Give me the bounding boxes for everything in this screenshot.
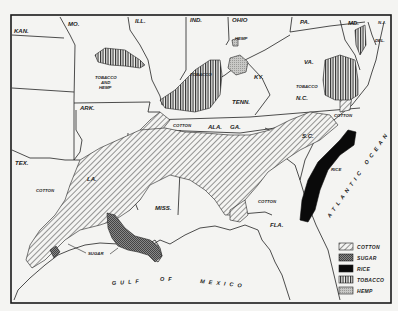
label-miss: MISS. [155,205,172,211]
label-va: VA. [304,59,314,65]
legend-label-sugar: SUGAR [357,255,377,261]
callout-cotton-fl: COTTON [258,199,277,204]
label-fla: FLA. [270,222,284,228]
label-ill: ILL. [135,18,146,24]
label-ga: GA. [230,124,241,130]
label-ky: KY. [254,74,264,80]
label-pa: PA. [300,19,310,25]
legend-swatch-sugar [339,254,353,261]
callout-tobacco-va: TOBACCO [296,84,318,89]
legend-label-cotton: COTTON [357,244,380,250]
legend-swatch-rice [339,265,353,272]
label-tenn: TENN. [232,99,250,105]
label-ark: ARK. [79,105,95,111]
callout-tobacco-hemp-3: HEMP [99,85,112,90]
label-la: LA. [87,176,97,182]
label-nj: N.J. [378,20,386,25]
label-ind: IND. [190,17,202,23]
label-del: DEL. [375,38,385,43]
label-ala: ALA. [207,124,222,130]
callout-tobacco-ky: TOBACCO [190,72,212,77]
callout-cotton-tn: COTTON [173,123,192,128]
callout-cotton-tx: COTTON [36,188,55,193]
label-nc: N.C. [296,95,308,101]
legend-label-hemp: HEMP [357,288,373,294]
callout-hemp-ky: HEMP [235,36,248,41]
callout-rice: RICE [331,167,341,172]
crop-map: KAN. MO. ILL. IND. OHIO PA. MD. N.J. DEL… [0,0,398,311]
label-sc: S.C. [302,133,314,139]
callout-cotton-nc: COTTON [334,113,353,118]
label-kan: KAN. [14,28,29,34]
label-mo: MO. [68,21,80,27]
legend-label-rice: RICE [357,266,371,272]
legend-swatch-hemp [339,287,353,294]
callout-sugar: SUGAR [88,251,104,256]
label-tex: TEX. [15,160,29,166]
label-ohio: OHIO [232,17,248,23]
legend-swatch-cotton [339,243,353,250]
legend-swatch-tobacco [339,276,353,283]
label-md: MD. [348,20,359,26]
label-of: OF [160,276,176,282]
legend-label-tobacco: TOBACCO [357,277,384,283]
